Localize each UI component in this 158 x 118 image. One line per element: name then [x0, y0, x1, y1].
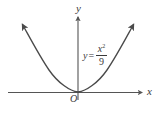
fraction-numerator: x2 — [97, 44, 106, 55]
fraction-denominator: 9 — [98, 56, 105, 67]
equals-sign: = — [88, 51, 94, 61]
parabola-figure: y x O y = x2 9 — [0, 0, 158, 118]
equation-label: y = x2 9 — [83, 44, 107, 67]
y-axis-label: y — [76, 3, 81, 14]
x-axis-label: x — [147, 86, 152, 97]
origin-label: O — [70, 94, 77, 104]
equation-fraction: x2 9 — [96, 44, 107, 67]
equation-left-side: y — [83, 51, 87, 61]
parabola-left-branch — [23, 25, 79, 93]
plot-canvas — [0, 0, 158, 118]
numerator-exponent: 2 — [102, 43, 105, 49]
